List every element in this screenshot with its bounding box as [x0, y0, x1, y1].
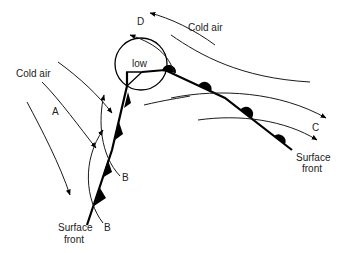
- surface-front-left-line2: front: [64, 234, 84, 245]
- flow-arrow-c-lower: [198, 118, 317, 140]
- flow-arrow-left-1: [58, 62, 112, 113]
- flow-arrow-a: [42, 82, 96, 148]
- flow-arrow-left-3: [27, 102, 70, 195]
- label-d: D: [137, 16, 144, 27]
- surface-front-right-line2: front: [302, 163, 322, 174]
- label-b-lower: B: [104, 222, 111, 233]
- cold-air-left-label: Cold air: [16, 68, 51, 79]
- cold-air-top-label: Cold air: [188, 22, 223, 33]
- occlusion-junction: [126, 72, 142, 86]
- surface-front-left-line1: Surface: [58, 222, 93, 233]
- frontal-system-diagram: low: [0, 0, 342, 253]
- airflow-lines: [27, 13, 326, 223]
- flow-line-short: [144, 96, 190, 105]
- label-a: A: [52, 106, 59, 117]
- label-c: C: [312, 122, 319, 133]
- warm-front: [142, 65, 292, 150]
- flow-arrow-b-lower: [88, 130, 103, 223]
- label-b-upper: B: [122, 172, 129, 183]
- warm-front-semicircle-icon: [198, 82, 212, 92]
- flow-line-cold-air-top: [171, 35, 310, 82]
- low-label: low: [132, 58, 148, 69]
- warm-front-semicircle-icon: [274, 134, 286, 144]
- low-pressure-center: low: [115, 38, 167, 90]
- surface-front-right-line1: Surface: [296, 152, 331, 163]
- labels: Cold air Cold air A B B C D Surface fron…: [16, 16, 331, 245]
